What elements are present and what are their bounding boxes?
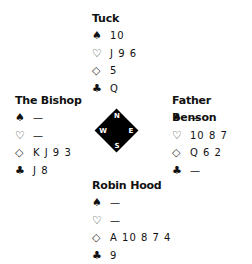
compass-west-label: W [98, 127, 108, 135]
diamonds-cards: 5 [110, 62, 117, 80]
clubs-cards: — [190, 162, 201, 180]
clubs-cards: J 8 [33, 162, 49, 180]
hearts-cards: — [33, 127, 44, 145]
diamonds-row: ◇ A 10 8 7 4 [92, 229, 171, 247]
club-icon: ♣ [172, 162, 190, 180]
heart-icon: ♡ [92, 45, 110, 63]
spades-cards: 10 [110, 27, 125, 45]
heart-icon: ♡ [92, 212, 110, 230]
club-icon: ♣ [92, 247, 110, 264]
clubs-row: ♣ 9 [92, 247, 171, 264]
hearts-cards: — [110, 212, 121, 230]
spade-icon: ♠ [15, 109, 33, 127]
compass-north-label: N [112, 112, 122, 120]
heart-icon: ♡ [15, 127, 33, 145]
spade-icon: ♠ [92, 194, 110, 212]
hand-west: The Bishop ♠ — ♡ — ◇ K J 9 3 ♣ J 8 [15, 92, 82, 179]
spades-row: ♠ — [92, 194, 171, 212]
player-name: Tuck [92, 10, 137, 27]
club-icon: ♣ [92, 80, 110, 98]
diamond-icon: ◇ [172, 144, 190, 162]
spades-cards: — [110, 194, 121, 212]
spade-icon: ♠ [92, 27, 110, 45]
compass-rose: N S W E [95, 109, 139, 153]
spades-row: ♠ — [15, 109, 82, 127]
hand-north: Tuck ♠ 10 ♡ J 9 6 ◇ 5 ♣ Q [92, 10, 137, 97]
heart-icon: ♡ [172, 127, 190, 145]
diamonds-cards: K J 9 3 [33, 144, 72, 162]
diamonds-cards: A 10 8 7 4 [110, 229, 171, 247]
hand-east: Father Benson ♠ — ♡ 10 8 7 ◇ Q 6 2 ♣ — [172, 92, 252, 179]
diamonds-row: ◇ K J 9 3 [15, 144, 82, 162]
diamond-icon: ◇ [15, 144, 33, 162]
diamonds-row: ◇ 5 [92, 62, 137, 80]
clubs-cards: 9 [110, 247, 117, 264]
compass-east-label: E [126, 127, 136, 135]
player-name: Robin Hood [92, 177, 171, 194]
clubs-cards: Q [110, 80, 119, 98]
diamonds-row: ◇ Q 6 2 [172, 144, 252, 162]
spades-row: ♠ 10 [92, 27, 137, 45]
hearts-row: ♡ — [15, 127, 82, 145]
spade-icon: ♠ [172, 109, 190, 127]
hearts-cards: J 9 6 [110, 45, 137, 63]
spades-cards: — [190, 109, 201, 127]
hearts-row: ♡ J 9 6 [92, 45, 137, 63]
spades-cards: — [33, 109, 44, 127]
club-icon: ♣ [15, 162, 33, 180]
diamond-icon: ◇ [92, 229, 110, 247]
hand-south: Robin Hood ♠ — ♡ — ◇ A 10 8 7 4 ♣ 9 [92, 177, 171, 264]
hearts-cards: 10 8 7 [190, 127, 228, 145]
diamonds-cards: Q 6 2 [190, 144, 222, 162]
clubs-row: ♣ J 8 [15, 162, 82, 180]
hearts-row: ♡ — [92, 212, 171, 230]
clubs-row: ♣ — [172, 162, 252, 180]
clubs-row: ♣ Q [92, 80, 137, 98]
player-name: The Bishop [15, 92, 82, 109]
player-name: Father Benson [172, 92, 252, 109]
diamond-icon: ◇ [92, 62, 110, 80]
compass-south-label: S [112, 142, 122, 150]
hearts-row: ♡ 10 8 7 [172, 127, 252, 145]
